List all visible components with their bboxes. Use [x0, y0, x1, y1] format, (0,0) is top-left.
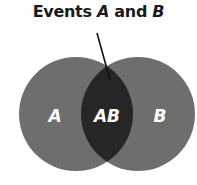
- venn-svg: A AB B: [0, 0, 197, 185]
- venn-diagram: Events A and B A AB B: [0, 0, 197, 185]
- label-ab: AB: [92, 106, 120, 126]
- label-a: A: [46, 106, 61, 126]
- label-b: B: [154, 106, 167, 126]
